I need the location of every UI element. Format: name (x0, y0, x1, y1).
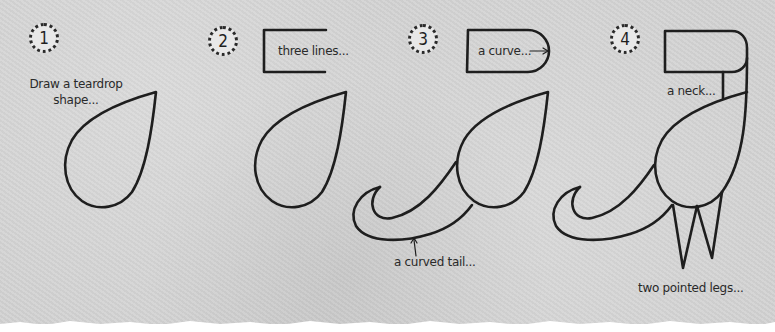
head-with-curve-step4 (665, 31, 747, 72)
tail-outer-step3 (353, 187, 472, 240)
step-1-number: 1 (39, 30, 49, 47)
neck-right-line-step4 (722, 58, 747, 192)
step-4-neck-annotation: a neck... (667, 83, 715, 99)
step-3-head-annotation: a curve... (478, 43, 531, 59)
tail-outer-step4 (553, 187, 672, 240)
teardrop-shape-step1 (65, 92, 156, 207)
step-2-annotation: three lines... (278, 43, 349, 59)
teardrop-body-step3 (457, 92, 548, 207)
step-1-instruction-line2: shape... (28, 92, 124, 108)
step-3-number: 3 (418, 31, 428, 48)
step-4-legs-annotation: two pointed legs... (638, 280, 743, 296)
step-3-tail-annotation: a curved tail... (394, 254, 476, 270)
body-back-step4 (655, 92, 747, 207)
torn-paper-edge (0, 321, 775, 324)
step-4-badge: 4 (610, 24, 640, 54)
step-1-instruction: Draw a teardrop shape... (28, 76, 124, 108)
tail-inner-step4 (572, 165, 654, 218)
step-1-instruction-line1: Draw a teardrop (28, 76, 124, 92)
tail-inner-step3 (372, 162, 456, 218)
step-4-number: 4 (620, 31, 630, 48)
step-1-badge: 1 (29, 23, 59, 53)
step-2-number: 2 (218, 33, 228, 50)
leg-front-step4 (673, 205, 697, 268)
step-2-badge: 2 (208, 26, 238, 56)
step-3-badge: 3 (408, 24, 438, 54)
teardrop-shape-step2 (255, 92, 346, 207)
drawing-tutorial-canvas: 1 2 3 4 Draw a teardrop shape... three l… (0, 0, 775, 324)
drawing-strokes (0, 0, 775, 324)
